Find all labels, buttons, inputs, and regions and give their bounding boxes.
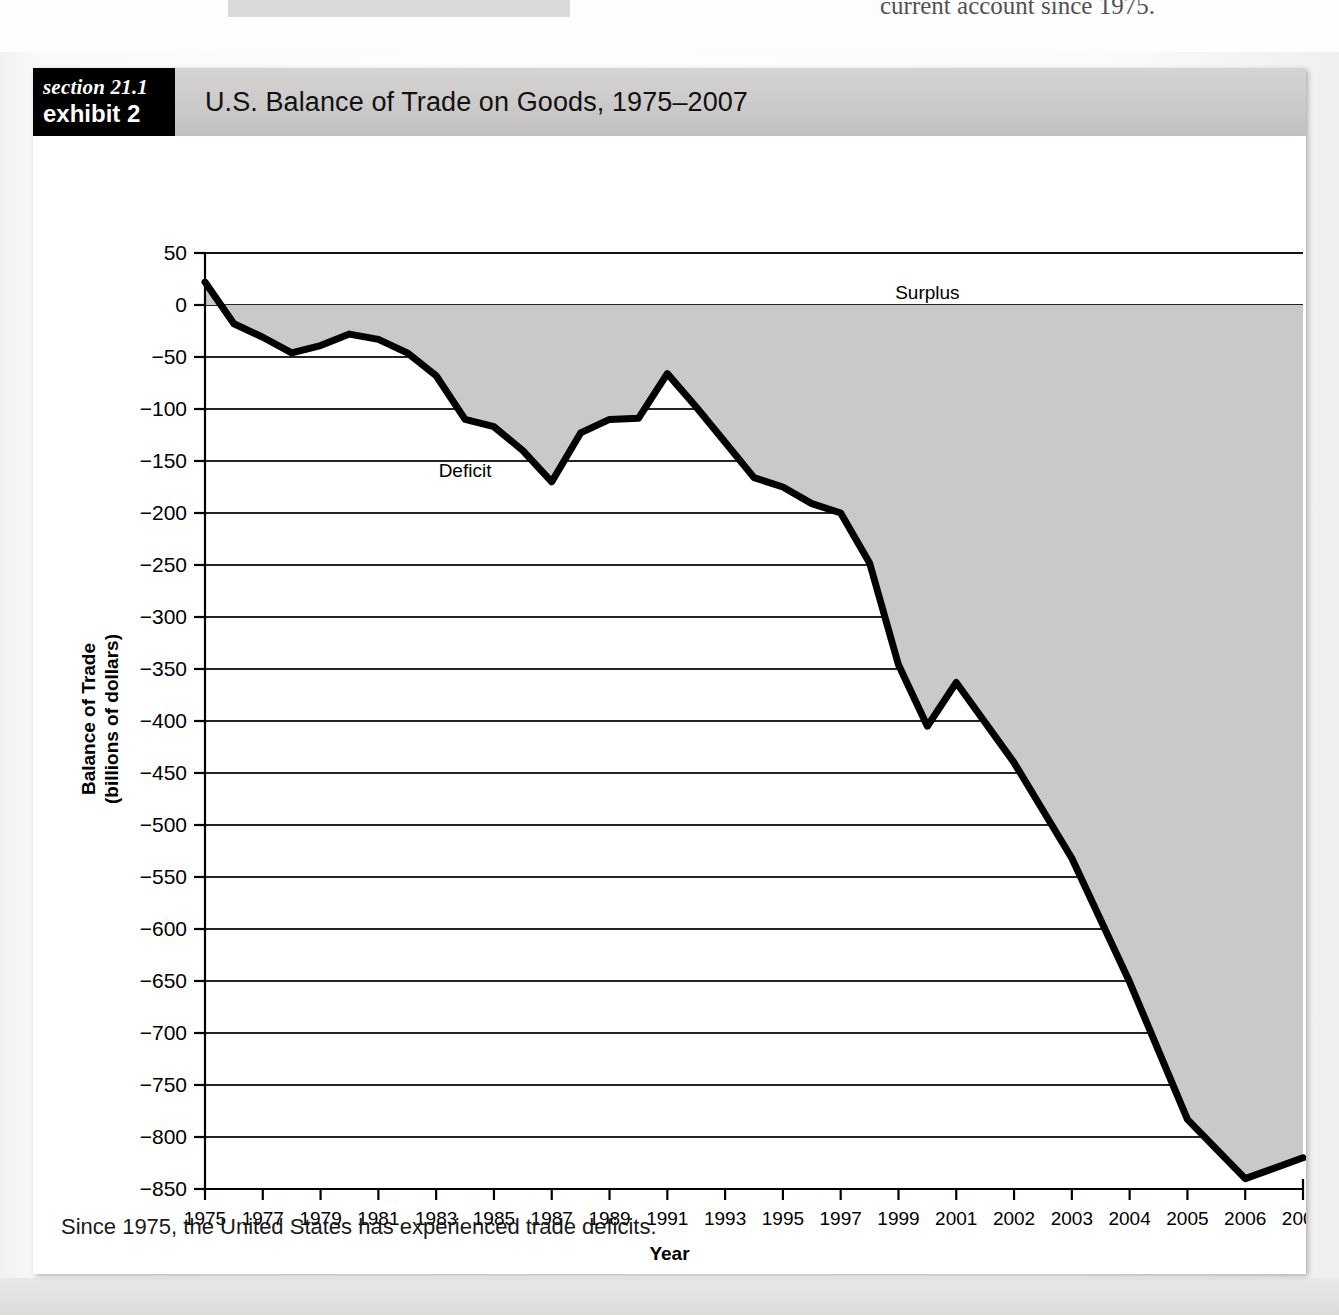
x-tick-label: 2001 (935, 1208, 977, 1229)
x-tick-label: 2004 (1108, 1208, 1151, 1229)
x-tick-label: 2002 (993, 1208, 1035, 1229)
y-tick-label: −550 (140, 865, 187, 888)
y-axis-ticks: 500−50−100−150−200−250−300−350−400−450−5… (140, 241, 205, 1200)
y-tick-label: −300 (140, 605, 187, 628)
y-tick-label: 50 (164, 241, 187, 264)
x-tick-label: 1999 (877, 1208, 919, 1229)
page-title: U.S. Balance of Trade on Goods, 1975–200… (205, 87, 748, 118)
deficit-shaded-area (205, 282, 1303, 1178)
y-tick-label: −150 (140, 449, 187, 472)
y-tick-label: −500 (140, 813, 187, 836)
exhibit-tag: section 21.1 exhibit 2 (33, 68, 175, 136)
line-chart: 500−50−100−150−200−250−300−350−400−450−5… (33, 136, 1306, 1274)
y-tick-label: −400 (140, 709, 187, 732)
y-axis-title-line2: (billions of dollars) (100, 589, 123, 849)
exhibit-caption: Since 1975, the United States has experi… (61, 1214, 657, 1240)
x-tick-label: 1995 (762, 1208, 804, 1229)
x-tick-label: 2005 (1166, 1208, 1208, 1229)
page-bleed-text: current account since 1975. (880, 0, 1155, 20)
exhibit-tag-section: section 21.1 (43, 75, 175, 100)
x-tick-label: 1997 (820, 1208, 862, 1229)
y-tick-label: −650 (140, 969, 187, 992)
y-tick-label: −250 (140, 553, 187, 576)
y-tick-label: 0 (175, 293, 187, 316)
y-tick-label: −850 (140, 1177, 187, 1200)
y-tick-label: −200 (140, 501, 187, 524)
y-tick-label: −700 (140, 1021, 187, 1044)
annotation-deficit: Deficit (439, 460, 493, 481)
exhibit-card: section 21.1 exhibit 2 U.S. Balance of T… (33, 68, 1306, 1274)
y-tick-label: −50 (151, 345, 187, 368)
page-top-gray-block (228, 0, 570, 17)
annotation-surplus: Surplus (895, 282, 959, 303)
y-tick-label: −800 (140, 1125, 187, 1148)
y-axis-title: Balance of Trade (billions of dollars) (77, 589, 123, 849)
y-tick-label: −750 (140, 1073, 187, 1096)
exhibit-tag-number: exhibit 2 (43, 100, 175, 128)
y-tick-label: −600 (140, 917, 187, 940)
x-tick-label: 2006 (1224, 1208, 1266, 1229)
y-tick-label: −450 (140, 761, 187, 784)
y-axis-title-line1: Balance of Trade (77, 589, 100, 849)
chart-area: 500−50−100−150−200−250−300−350−400−450−5… (33, 136, 1306, 1274)
page-bottom-strip (0, 1278, 1339, 1315)
y-tick-label: −350 (140, 657, 187, 680)
x-tick-label: 2007 (1282, 1208, 1306, 1229)
x-tick-label: 2003 (1051, 1208, 1093, 1229)
y-tick-label: −100 (140, 397, 187, 420)
exhibit-header: section 21.1 exhibit 2 U.S. Balance of T… (33, 68, 1306, 136)
x-axis-title: Year (33, 1243, 1306, 1265)
x-tick-label: 1993 (704, 1208, 746, 1229)
